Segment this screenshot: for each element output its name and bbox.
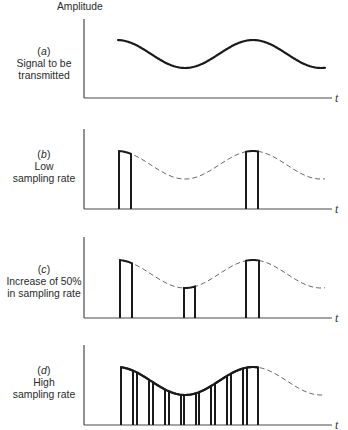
- panel-d-sample-pulse: [153, 382, 165, 425]
- panel-d-sample-pulse: [215, 376, 227, 425]
- panel-d-sample-pulse: [247, 367, 258, 425]
- sample-pulse-outline: [231, 368, 243, 425]
- panel-a-tag: (a): [0, 46, 88, 58]
- panel-b-dashed-signal: [119, 151, 325, 179]
- panel-a-label: (a) Signal to be transmitted: [0, 46, 88, 82]
- panel-a-signal-curve: [118, 40, 325, 68]
- panel-b-plot: [84, 129, 332, 209]
- panel-d-sample-pulse: [169, 391, 181, 425]
- panel-c-time-axis-label: t: [335, 312, 338, 324]
- panel-b-sample-pulse: [246, 151, 258, 209]
- panel-c-sample-pulse: [120, 260, 132, 318]
- panel-d-sample-pulse: [199, 386, 211, 425]
- sample-pulse-outline: [184, 287, 195, 318]
- panel-b-sample-pulse: [119, 151, 131, 209]
- panel-c-dashed-signal: [120, 260, 325, 288]
- sample-pulse-outline: [120, 260, 132, 318]
- panel-a-caption-line-2: transmitted: [0, 70, 88, 82]
- sample-pulse-outline: [246, 151, 258, 209]
- sample-pulse-outline: [215, 376, 227, 425]
- sample-pulse-outline: [184, 393, 196, 425]
- panel-d-tag: (d): [0, 365, 88, 377]
- panel-d-label: (d) High sampling rate: [0, 365, 88, 401]
- panel-c-caption-line-2: in sampling rate: [0, 288, 88, 300]
- sample-pulse-outline: [247, 367, 258, 425]
- panel-b-caption-line-1: Low: [0, 161, 88, 173]
- panel-c-sample-pulse: [184, 287, 195, 318]
- panel-a-plot: [84, 19, 332, 98]
- panel-d-sample-pulse: [231, 368, 243, 425]
- sample-pulse-outline: [153, 382, 165, 425]
- sample-pulse-outline: [121, 367, 133, 425]
- panel-a-caption-line-1: Signal to be: [0, 58, 88, 70]
- panel-d-plot: [84, 345, 332, 425]
- panel-b-caption-line-2: sampling rate: [0, 173, 88, 185]
- panel-d-caption-line-1: High: [0, 377, 88, 389]
- sample-pulse-outline: [199, 386, 211, 425]
- sample-pulse-outline: [169, 391, 181, 425]
- panel-d-caption-line-2: sampling rate: [0, 389, 88, 401]
- panel-d-sample-pulse: [184, 393, 196, 425]
- sampling-rate-figure: Amplitude (a) Signal to be transmitted t…: [0, 0, 348, 430]
- panel-c-sample-pulse: [246, 260, 259, 318]
- sample-pulse-outline: [246, 260, 259, 318]
- panel-c-caption-line-1: Increase of 50%: [0, 276, 88, 288]
- panel-b-time-axis-label: t: [335, 203, 338, 215]
- panel-c-plot: [84, 237, 332, 318]
- panel-b-label: (b) Low sampling rate: [0, 149, 88, 185]
- sample-pulse-outline: [137, 373, 149, 425]
- panel-d-time-axis-label: t: [335, 419, 338, 430]
- panel-d-sample-pulse: [137, 373, 149, 425]
- panel-c-tag: (c): [0, 264, 88, 276]
- panel-d-sample-pulse: [121, 367, 133, 425]
- panel-b-tag: (b): [0, 149, 88, 161]
- panel-a-time-axis-label: t: [335, 92, 338, 104]
- panel-c-label: (c) Increase of 50% in sampling rate: [0, 264, 88, 300]
- sample-pulse-outline: [119, 151, 131, 209]
